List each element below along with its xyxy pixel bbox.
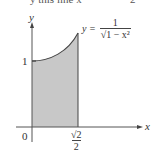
x-axis-arrow-icon: [137, 125, 143, 129]
curve-label-fraction: 1 √1 − x²: [100, 17, 131, 40]
x-axis-label: x: [145, 120, 150, 132]
y-tick-label-1: 1: [22, 55, 28, 67]
shaded-region: [32, 33, 78, 127]
curve-label-lhs: y =: [82, 23, 96, 34]
curve-label: y = 1 √1 − x²: [82, 17, 131, 40]
x-tick-label-0: 0: [22, 130, 28, 142]
curve-label-denominator: √1 − x²: [100, 28, 131, 40]
x-tick-denominator: 2: [72, 140, 81, 152]
x-tick-numerator: √2: [71, 129, 82, 140]
y-axis-label: y: [29, 11, 34, 23]
curve-label-numerator: 1: [113, 17, 118, 28]
x-tick-label-sqrt2-over-2: √2 2: [71, 129, 82, 152]
